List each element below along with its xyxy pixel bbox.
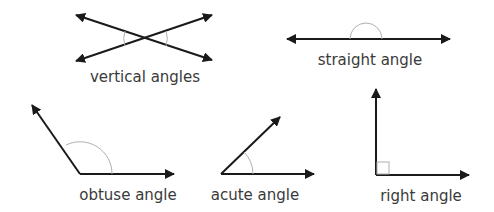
acute-angle-figure [221, 117, 314, 174]
straight-angle-figure [287, 23, 450, 39]
straight-angle-label: straight angle [318, 53, 423, 68]
acute-angle-label: acute angle [211, 188, 299, 203]
right-angle-label: right angle [380, 189, 462, 204]
obtuse-angle-label: obtuse angle [79, 188, 177, 203]
vertical-angles-figure [76, 15, 212, 61]
right-angle-figure [376, 89, 469, 175]
vertical-angles-label: vertical angles [90, 70, 200, 85]
obtuse-angle-figure [32, 105, 174, 174]
angles-diagram [0, 0, 494, 212]
